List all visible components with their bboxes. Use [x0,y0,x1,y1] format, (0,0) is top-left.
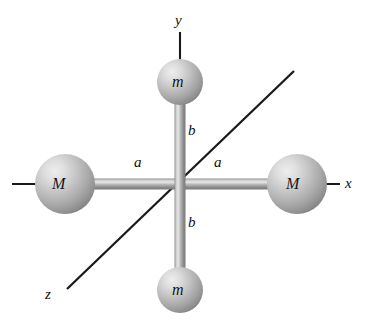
dimension-label-b-bottom: b [188,215,196,230]
dimension-label-b-top: b [188,123,196,138]
mass-label-M-right: M [286,176,299,192]
axis-label-y: y [175,13,182,28]
axis-label-z: z [45,287,51,302]
diagram-canvas [0,0,366,326]
physics-diagram: y x z a a b b m m M M [0,0,366,326]
dimension-label-a-left: a [134,155,142,170]
mass-label-m-bottom: m [172,282,184,298]
mass-label-M-left: M [52,176,65,192]
mass-label-m-top: m [172,74,184,90]
rod-vertical [175,78,186,292]
dimension-label-a-right: a [214,155,222,170]
axis-label-x: x [345,176,352,191]
